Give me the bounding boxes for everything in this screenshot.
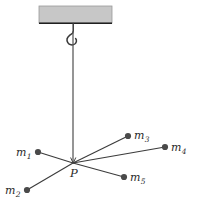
mass-label-m3: m3 [134,130,149,141]
mass-label-m5-letter: m [130,171,140,184]
mass-dot-m3 [125,133,131,139]
mass-label-m3-subscript: 3 [145,135,150,144]
mass-dot-m5 [121,174,127,180]
hook-icon [67,24,76,45]
line-to-m1 [38,152,73,163]
mass-dot-m4 [162,144,168,150]
mass-label-m4-letter: m [171,141,181,154]
ceiling-block [39,6,112,23]
mass-label-m1-letter: m [16,146,26,159]
mass-label-m2: m2 [5,185,20,196]
figure-canvas [0,0,197,202]
mass-label-m1-subscript: 1 [27,152,32,161]
line-to-m2 [27,163,73,190]
physics-figure: m1 m2 m3 m4 m5 P [0,0,197,202]
mass-label-m4-subscript: 4 [182,147,187,156]
line-to-m3 [73,136,128,163]
ceiling-hook [67,24,76,45]
mass-dot-m2 [24,187,30,193]
mass-label-m1: m1 [16,147,31,158]
mass-label-m5: m5 [130,172,145,183]
mass-dot-m1 [35,149,41,155]
line-to-m4 [73,147,165,163]
mass-label-m3-letter: m [134,129,144,142]
junction-point-label: P [70,168,78,180]
line-to-m5 [73,163,124,177]
mass-label-m2-subscript: 2 [16,190,21,199]
ceiling-group [39,6,112,23]
mass-label-m5-subscript: 5 [141,177,146,186]
mass-label-m4: m4 [171,142,186,153]
mass-label-m2-letter: m [5,184,15,197]
